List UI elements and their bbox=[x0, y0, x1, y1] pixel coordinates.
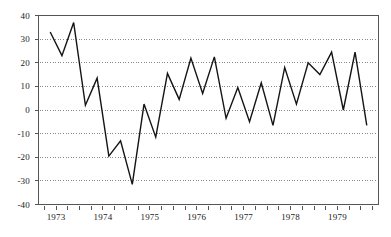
y-tick-label: 40 bbox=[4, 11, 30, 21]
x-tick-label: 1975 bbox=[130, 212, 170, 222]
y-tick-label: -30 bbox=[4, 176, 30, 186]
data-series-line bbox=[50, 23, 367, 185]
y-tick-label: 10 bbox=[4, 81, 30, 91]
y-tick-label: 30 bbox=[4, 34, 30, 44]
x-tick-label: 1977 bbox=[224, 212, 264, 222]
plot-area bbox=[0, 0, 391, 237]
x-tick-label: 1974 bbox=[83, 212, 123, 222]
y-tick-label: 0 bbox=[4, 105, 30, 115]
x-tick-label: 1978 bbox=[271, 212, 311, 222]
y-tick-label: 20 bbox=[4, 58, 30, 68]
x-axis-ticks bbox=[44, 206, 372, 211]
x-tick-label: 1976 bbox=[177, 212, 217, 222]
x-tick-label: 1973 bbox=[36, 212, 76, 222]
y-tick-label: -40 bbox=[4, 200, 30, 210]
y-tick-label: -20 bbox=[4, 152, 30, 162]
y-tick-label: -10 bbox=[4, 129, 30, 139]
line-chart: 403020100-10-20-30-40 197319741975197619… bbox=[0, 0, 391, 237]
x-tick-label: 1979 bbox=[317, 212, 357, 222]
